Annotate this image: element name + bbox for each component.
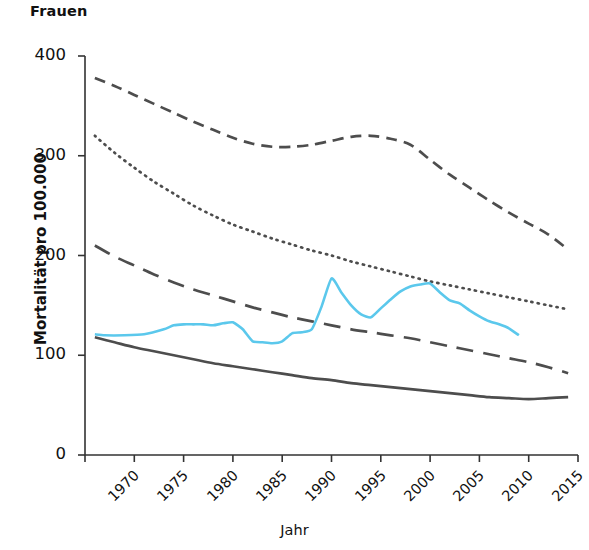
- series-line-solid-lower: [95, 337, 568, 399]
- series-line-dotted: [95, 136, 568, 310]
- plot-area: [0, 0, 589, 550]
- series-line-dashed-upper: [95, 78, 568, 250]
- chart-canvas: Frauen Mortalität pro 100.000 Jahr 01002…: [0, 0, 589, 550]
- series-line-cyan-highlight: [95, 278, 519, 343]
- data-series-layer: [95, 78, 568, 399]
- axis-lines: [78, 56, 578, 462]
